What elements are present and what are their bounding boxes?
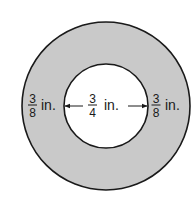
right-width-denominator: 8 [153,106,160,120]
left-width-numerator: 3 [29,92,36,106]
inner-diameter-denominator: 4 [89,106,96,120]
right-width-numerator: 3 [153,92,160,106]
right-width-unit: in. [165,97,180,113]
inner-diameter-unit: in. [104,97,119,113]
inner-diameter-numerator: 3 [89,92,96,106]
left-width-denominator: 8 [29,106,36,120]
left-width-unit: in. [41,97,56,113]
annulus-diagram: 3 8 in. 3 4 in. 3 8 in. [0,0,195,209]
